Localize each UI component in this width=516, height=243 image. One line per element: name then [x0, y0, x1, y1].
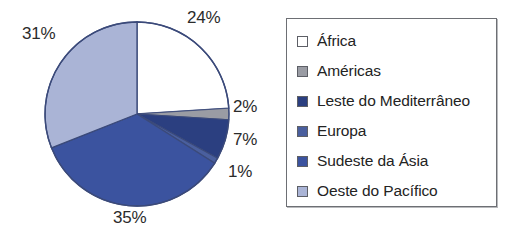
legend-label-sudeste-asia: Sudeste da Ásia: [317, 152, 428, 170]
pie-label-leste-mediterraneo: 7%: [233, 130, 257, 150]
legend-swatch-africa: [297, 36, 308, 47]
pie-slice-africa[interactable]: [137, 22, 229, 114]
legend-swatch-oeste-pacifico: [297, 186, 308, 197]
legend-label-europa: Europa: [317, 122, 366, 140]
legend-item-africa[interactable]: África: [297, 26, 492, 56]
legend-list: África Américas Leste do Mediterrâneo Eu…: [297, 26, 492, 206]
pie-chart-plot-area: 24% 31% 2% 7% 1% 35%: [0, 0, 280, 243]
legend-label-americas: Américas: [317, 62, 381, 80]
pie-label-sudeste-asia: 35%: [113, 208, 146, 228]
legend-swatch-leste-mediterraneo: [297, 96, 308, 107]
legend-item-leste-mediterraneo[interactable]: Leste do Mediterrâneo: [297, 86, 492, 116]
pie-label-americas: 2%: [233, 97, 257, 117]
legend-swatch-sudeste-asia: [297, 156, 308, 167]
legend-label-leste-mediterraneo: Leste do Mediterrâneo: [317, 92, 470, 110]
legend-item-oeste-pacifico[interactable]: Oeste do Pacífico: [297, 176, 492, 206]
pie-label-oeste-pacifico: 31%: [22, 24, 55, 44]
pie-chart-figure: 24% 31% 2% 7% 1% 35% África Américas Les…: [0, 0, 516, 243]
legend-label-oeste-pacifico: Oeste do Pacífico: [317, 182, 438, 200]
legend-swatch-europa: [297, 126, 308, 137]
legend-item-americas[interactable]: Américas: [297, 56, 492, 86]
chart-legend: África Américas Leste do Mediterrâneo Eu…: [286, 18, 497, 207]
legend-swatch-americas: [297, 66, 308, 77]
pie-label-europa: 1%: [228, 162, 252, 182]
pie-label-africa: 24%: [187, 8, 220, 28]
legend-label-africa: África: [317, 32, 356, 50]
legend-item-sudeste-asia[interactable]: Sudeste da Ásia: [297, 146, 492, 176]
legend-item-europa[interactable]: Europa: [297, 116, 492, 146]
